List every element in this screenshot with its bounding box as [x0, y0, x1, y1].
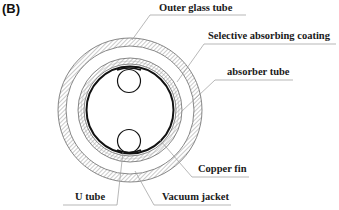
label-outer-glass-tube: Outer glass tube [159, 2, 232, 14]
label-copper-fin: Copper fin [198, 163, 247, 175]
diagram-stage: (B) Outer glass tube Selective absorbing… [0, 0, 339, 210]
label-selective-absorbing-coating: Selective absorbing coating [208, 30, 330, 42]
panel-label: (B) [2, 1, 20, 16]
label-absorber-tube: absorber tube [227, 66, 290, 78]
u-tube-bottom [117, 130, 141, 153]
label-vacuum-jacket: Vacuum jacket [162, 191, 229, 203]
label-u-tube: U tube [75, 191, 105, 203]
